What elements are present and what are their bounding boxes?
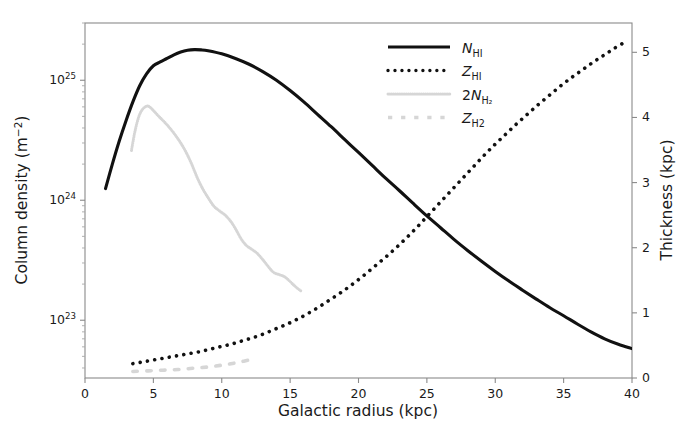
y-left-label-main: Column density (m <box>13 137 31 284</box>
y-left-label-exponent: −2 <box>12 122 24 137</box>
x-tick-label: 15 <box>282 386 298 401</box>
y-right-tick-label: 2 <box>642 240 650 255</box>
y-left-axis-label: Column density (m−2) <box>12 116 31 285</box>
x-axis-ticks: 0510152025303540 <box>81 378 640 401</box>
series-z-h2 <box>133 359 253 371</box>
x-axis-label: Galactic radius (kpc) <box>278 402 438 420</box>
y-right-tick-label: 1 <box>642 305 650 320</box>
y-left-label-close: ) <box>13 116 31 122</box>
x-tick-label: 20 <box>351 386 367 401</box>
x-tick-label: 0 <box>81 386 89 401</box>
x-tick-label: 35 <box>556 386 572 401</box>
x-tick-label: 30 <box>487 386 503 401</box>
y-left-axis-ticks: 102310241025 <box>49 23 85 368</box>
legend-label-n-hi: NHI <box>462 40 483 59</box>
y-right-axis-ticks: 012345 <box>632 44 650 385</box>
axes-frame <box>85 23 632 378</box>
x-tick-label: 10 <box>214 386 230 401</box>
series-n-hi <box>106 50 632 349</box>
svg-text:Column density (m−2): Column density (m−2) <box>12 116 31 285</box>
x-tick-label: 5 <box>149 386 157 401</box>
data-series-group <box>106 42 632 372</box>
series-z-hi <box>133 42 625 364</box>
x-tick-label: 25 <box>419 386 435 401</box>
legend-label-z-hi: ZHI <box>461 63 482 82</box>
chart-legend: NHIZHI2NH₂ZH2 <box>388 40 493 130</box>
y-left-tick-label: 1023 <box>49 311 76 327</box>
y-right-axis-label: Thickness (kpc) <box>658 140 676 262</box>
y-right-tick-label: 5 <box>642 44 650 59</box>
legend-label-2n-h2: 2NH₂ <box>462 87 493 106</box>
y-right-tick-label: 4 <box>642 109 650 124</box>
chart-canvas: 0510152025303540 102310241025 012345 NHI… <box>0 0 690 427</box>
y-right-tick-label: 3 <box>642 175 650 190</box>
y-right-label-text: Thickness (kpc) <box>658 140 676 262</box>
y-left-tick-label: 1025 <box>49 71 76 87</box>
figure-container: 0510152025303540 102310241025 012345 NHI… <box>0 0 690 427</box>
y-right-tick-label: 0 <box>642 370 650 385</box>
legend-label-z-h2: ZH2 <box>461 110 485 129</box>
series-2n-h2 <box>132 106 302 291</box>
plot-frame <box>85 23 632 378</box>
x-tick-label: 40 <box>624 386 640 401</box>
y-left-tick-label: 1024 <box>49 191 76 207</box>
